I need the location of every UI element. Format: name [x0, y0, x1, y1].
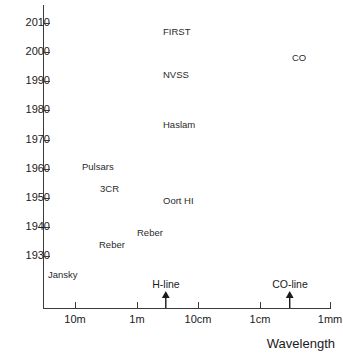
data-point-label: CO: [292, 53, 306, 63]
annotation-h-line: H-line: [152, 279, 179, 308]
y-axis-tick-1930: 1930: [0, 256, 50, 257]
y-axis-tick-mark: [44, 110, 50, 111]
x-axis-tick-mark: [260, 302, 261, 308]
y-axis-tick-mark: [44, 23, 50, 24]
data-point-label: FIRST: [163, 27, 190, 37]
data-point-label: Haslam: [163, 120, 195, 130]
x-axis-tick-mark: [75, 302, 76, 308]
x-axis-tick-label-1mm: 1mm: [318, 313, 342, 325]
x-axis-line: [43, 308, 331, 309]
y-axis-tick-1990: 1990: [0, 81, 50, 82]
annotation-co-line: CO-line: [272, 279, 308, 308]
y-axis-tick-mark: [44, 169, 50, 170]
data-point-label: Oort HI: [163, 196, 194, 206]
y-axis-tick-mark: [44, 227, 50, 228]
y-axis-tick-2010: 2010: [0, 23, 50, 24]
x-axis-tick-mark: [198, 302, 199, 308]
x-axis-tick-label-1cm: 1cm: [250, 313, 271, 325]
wavelength-year-scatter-chart: 193019401950196019701980199020002010 10m…: [0, 0, 343, 362]
y-axis-tick-1940: 1940: [0, 227, 50, 228]
x-axis-tick-mark: [330, 302, 331, 308]
data-point-label: Reber: [137, 228, 163, 238]
y-axis-tick-1980: 1980: [0, 110, 50, 111]
x-axis-title: Wavelength: [267, 336, 335, 351]
x-axis-tick-mark: [137, 302, 138, 308]
annotation-label: H-line: [152, 279, 179, 290]
x-axis-tick-label-10m: 10m: [64, 313, 85, 325]
x-axis-tick-label-1m: 1m: [129, 313, 144, 325]
data-point-label: NVSS: [163, 70, 189, 80]
y-axis-tick-mark: [44, 198, 50, 199]
y-axis-tick-mark: [44, 140, 50, 141]
y-axis-tick-1950: 1950: [0, 198, 50, 199]
up-arrow-icon: [286, 291, 295, 308]
up-arrow-icon: [162, 291, 171, 308]
y-axis-tick-2000: 2000: [0, 52, 50, 53]
y-axis-tick-1960: 1960: [0, 169, 50, 170]
annotation-label: CO-line: [272, 279, 308, 290]
data-point-label: Pulsars: [82, 162, 114, 172]
data-point-label: Reber: [99, 240, 125, 250]
y-axis-tick-mark: [44, 52, 50, 53]
x-axis-tick-label-10cm: 10cm: [185, 313, 212, 325]
y-axis-tick-mark: [44, 81, 50, 82]
data-point-label: 3CR: [100, 184, 119, 194]
y-axis-tick-1970: 1970: [0, 140, 50, 141]
data-point-label: Jansky: [48, 270, 78, 280]
y-axis-tick-mark: [44, 256, 50, 257]
